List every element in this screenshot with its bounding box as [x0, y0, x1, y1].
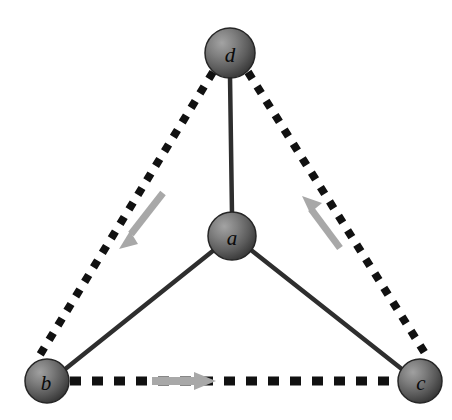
node-c[interactable]: c — [398, 359, 442, 403]
node-a[interactable]: a — [208, 212, 256, 260]
node-b-label: b — [41, 371, 52, 395]
edge-d-b — [38, 72, 213, 358]
node-b[interactable]: b — [25, 359, 69, 403]
edge-a-d — [230, 76, 232, 214]
node-layer: d a b c — [25, 28, 442, 403]
node-d[interactable]: d — [205, 28, 255, 78]
arrow-b-to-c-icon — [152, 372, 216, 390]
node-a-label: a — [227, 226, 238, 250]
edge-d-c — [248, 72, 428, 358]
graph-canvas: d a b c — [0, 0, 452, 420]
graph-figure: d a b c — [0, 0, 452, 420]
edge-a-b — [64, 250, 214, 370]
edge-a-c — [251, 250, 403, 370]
node-c-label: c — [416, 371, 426, 395]
node-d-label: d — [225, 43, 236, 67]
